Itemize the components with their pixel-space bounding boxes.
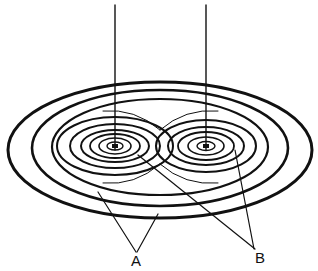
label-a: A (131, 253, 141, 268)
label-b: B (255, 250, 265, 265)
wire-right-end (203, 144, 209, 148)
wire-left-end (112, 144, 118, 148)
pointer-b-2 (235, 150, 254, 249)
field-lines-diagram (0, 0, 318, 271)
pointer-a-1 (98, 192, 136, 252)
pointer-b-1 (138, 155, 255, 249)
pointer-a-2 (137, 214, 158, 252)
